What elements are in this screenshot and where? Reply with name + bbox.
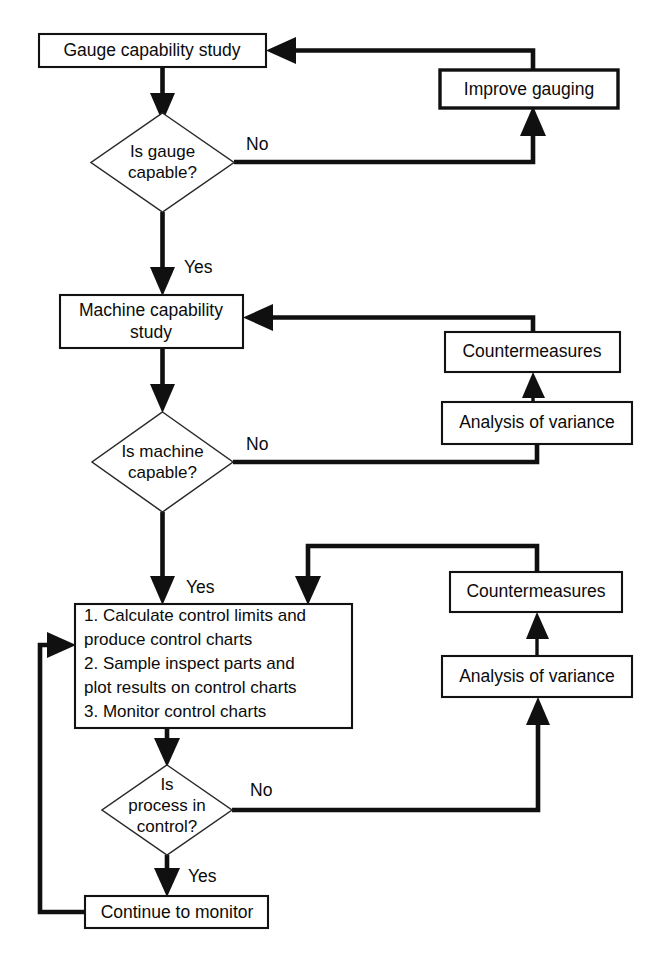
node-control-steps-line-3: 2. Sample inspect parts and	[84, 654, 295, 673]
edge-gauge-yes-to-machine-study	[150, 212, 175, 296]
edge-label-gauge-yes: Yes	[184, 257, 213, 277]
node-gauge-study-label: Gauge capability study	[63, 40, 240, 60]
node-machine-study-label-line1: Machine capability	[79, 300, 223, 320]
node-process-decision-label-line1: Is	[160, 775, 173, 794]
edge-improve-gauging-to-gauge-study	[266, 37, 533, 70]
edge-machine-study-to-machine-decision	[150, 348, 175, 413]
edge-analysis2-to-countermeasures2	[526, 612, 549, 656]
node-machine-decision-label-line1: Is machine	[121, 442, 203, 461]
edge-gauge-no-to-improve-gauging	[234, 106, 546, 162]
node-control-steps-line-1: 1. Calculate control limits and	[84, 606, 306, 625]
edge-machine-yes-to-control-steps	[150, 512, 175, 605]
node-control-steps-line-2: produce control charts	[84, 630, 252, 649]
edge-label-gauge-no: No	[246, 134, 268, 154]
node-continue-monitor-label: Continue to monitor	[101, 902, 254, 922]
edge-control-steps-to-process-decision	[154, 728, 180, 767]
node-machine-decision-shape	[92, 412, 233, 512]
node-improve-gauging-label: Improve gauging	[464, 79, 594, 99]
edge-process-yes-to-continue-monitor	[154, 855, 180, 897]
edge-countermeasures1-to-machine-study	[243, 304, 533, 332]
node-gauge-decision-label-line1: Is gauge	[130, 142, 195, 161]
edge-label-machine-no: No	[246, 434, 268, 454]
edge-machine-no-to-analysis1	[233, 444, 537, 462]
node-gauge-decision-label-line2: capable?	[128, 163, 197, 182]
flowchart-svg: Gauge capability study Improve gauging I…	[0, 0, 661, 956]
edge-analysis1-to-countermeasures1	[522, 372, 545, 402]
node-process-decision-label-line2: process in	[128, 796, 205, 815]
node-control-steps-line-5: 3. Monitor control charts	[84, 702, 266, 721]
flowchart-canvas: Gauge capability study Improve gauging I…	[0, 0, 661, 956]
edge-label-process-yes: Yes	[188, 866, 217, 886]
edge-label-process-no: No	[250, 780, 272, 800]
node-machine-study-label-line2: study	[130, 322, 172, 342]
node-control-steps-line-4: plot results on control charts	[84, 678, 297, 697]
node-analysis-1-label: Analysis of variance	[459, 412, 615, 432]
node-countermeasures-1-label: Countermeasures	[462, 341, 601, 361]
node-process-decision-label-line3: control?	[137, 817, 197, 836]
node-analysis-2-label: Analysis of variance	[459, 666, 615, 686]
node-machine-decision-label-line2: capable?	[128, 463, 197, 482]
node-countermeasures-2-label: Countermeasures	[466, 581, 605, 601]
edge-label-machine-yes: Yes	[186, 577, 215, 597]
